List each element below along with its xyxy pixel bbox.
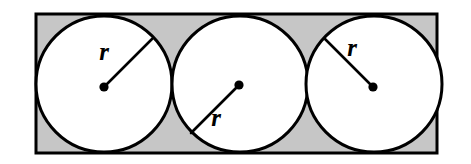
radius-label-2: r	[211, 104, 221, 131]
radius-label-1: r	[99, 38, 109, 65]
center-point-2	[234, 80, 243, 89]
center-point-3	[368, 82, 377, 91]
diagram-canvas: r r r	[0, 0, 471, 164]
radius-label-3: r	[347, 34, 357, 61]
geometry-diagram: r r r	[0, 0, 471, 164]
center-point-1	[99, 82, 108, 91]
